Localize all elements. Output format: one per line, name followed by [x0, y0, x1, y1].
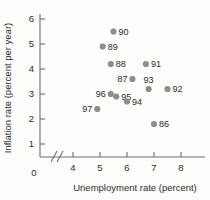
scatter-chart: 123456 45678 0 Unemployment rate (percen… [0, 0, 210, 200]
data-point-marker [110, 28, 116, 34]
y-tick-label: 6 [29, 13, 34, 24]
data-point-marker [108, 61, 114, 67]
data-point: 86 [151, 119, 169, 129]
data-point-label: 96 [96, 89, 106, 99]
x-tick-label: 5 [97, 162, 102, 173]
data-point-marker [146, 86, 152, 92]
data-point-marker [151, 121, 157, 127]
data-point-marker [164, 86, 170, 92]
data-point: 91 [143, 59, 161, 69]
data-point: 87 [117, 74, 135, 84]
data-point: 97 [82, 104, 100, 114]
data-point-label: 94 [132, 97, 142, 107]
data-point-marker [129, 76, 135, 82]
data-point-label: 92 [173, 84, 183, 94]
y-tick-label: 3 [29, 88, 34, 99]
data-point-marker [124, 98, 130, 104]
data-point-label: 86 [159, 119, 169, 129]
y-tick-label: 1 [29, 138, 34, 149]
y-tick-label: 2 [29, 113, 34, 124]
x-tick-label: 4 [70, 162, 75, 173]
x-axis: 45678 [40, 151, 205, 173]
data-point: 96 [96, 89, 114, 99]
data-point: 92 [164, 84, 182, 94]
data-point: 89 [100, 42, 118, 52]
x-tick-label: 6 [124, 162, 129, 173]
y-axis-title: Inflation rate (percent per year) [2, 23, 13, 153]
data-point: 88 [108, 59, 126, 69]
data-point-marker [113, 93, 119, 99]
x-tick-group: 45678 [70, 152, 183, 173]
data-point-label: 89 [108, 42, 118, 52]
data-point: 90 [110, 27, 128, 37]
data-point-label: 93 [144, 75, 154, 85]
chart-canvas: 123456 45678 0 Unemployment rate (percen… [0, 0, 210, 200]
data-point-label: 90 [119, 27, 129, 37]
x-tick-label: 7 [151, 162, 156, 173]
x-axis-title: Unemployment rate (percent) [73, 182, 197, 193]
y-tick-label: 5 [29, 38, 34, 49]
data-point-label: 97 [82, 104, 92, 114]
data-point-marker [94, 106, 100, 112]
data-point-marker [100, 43, 106, 49]
data-point-label: 91 [151, 59, 161, 69]
y-axis: 123456 [29, 13, 45, 157]
data-point-label: 87 [117, 74, 127, 84]
data-point: 93 [144, 75, 154, 92]
data-point-marker [108, 91, 114, 97]
y-tick-group: 123456 [29, 13, 45, 149]
data-point-label: 88 [116, 59, 126, 69]
data-point-marker [143, 61, 149, 67]
x-tick-label: 8 [178, 162, 183, 173]
origin-tick-label: 0 [31, 167, 36, 178]
data-point-group: 908988918793929695949786 [82, 27, 182, 130]
y-tick-label: 4 [29, 63, 34, 74]
